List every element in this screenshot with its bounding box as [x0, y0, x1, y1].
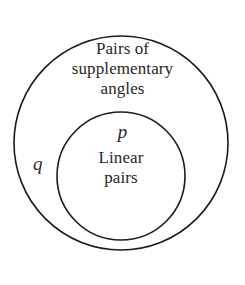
inner-set-label-line-2: pairs [56, 169, 186, 186]
inner-set-variable-p: p [0, 122, 245, 141]
outer-set-label-line-3: angles [0, 80, 245, 97]
outer-set-label: Pairs of supplementary angles [0, 40, 245, 97]
inner-set-label-line-1: Linear [56, 149, 186, 166]
inner-set-label: Linear pairs [56, 149, 186, 186]
outer-set-label-line-2: supplementary [0, 60, 245, 77]
outer-set-label-line-1: Pairs of [0, 40, 245, 57]
euler-diagram: Pairs of supplementary angles q p Linear… [0, 0, 245, 285]
outer-set-variable-q: q [33, 154, 43, 173]
